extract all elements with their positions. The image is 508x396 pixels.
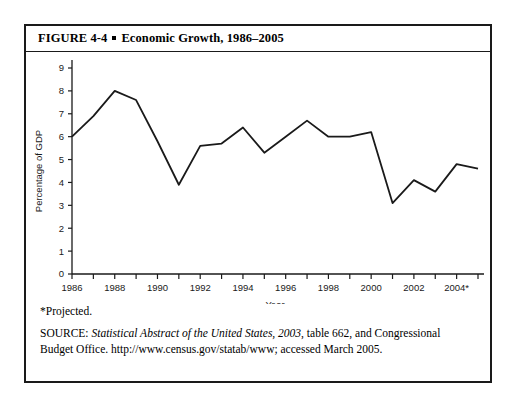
source-prefix: SOURCE: (40, 327, 91, 339)
y-tick-label: 9 (59, 62, 64, 73)
square-bullet-icon (112, 36, 116, 40)
y-tick-label: 6 (59, 131, 64, 142)
y-axis-title: Percentage of GDP (33, 130, 44, 212)
y-tick-label: 7 (59, 108, 64, 119)
y-tick-label: 8 (59, 85, 64, 96)
x-tick-label: 1986 (61, 282, 82, 293)
x-tick-label: 2002 (403, 282, 424, 293)
y-tick-label: 1 (59, 246, 64, 257)
note-projected: *Projected. (40, 304, 476, 320)
x-tick-label: 1996 (275, 282, 296, 293)
y-tick-label: 4 (59, 177, 64, 188)
page-title: Economic Growth, 1986–2005 (121, 31, 283, 46)
figure-notes: *Projected. SOURCE: Statistical Abstract… (26, 304, 490, 357)
x-tick-label: 1988 (104, 282, 125, 293)
figure-number: FIGURE 4-4 (38, 31, 107, 46)
line-chart: 0123456789198619881990199219941996199820… (26, 52, 490, 304)
chart-plot-area: 0123456789198619881990199219941996199820… (26, 52, 490, 304)
source-publication-title: Statistical Abstract of the United State… (91, 327, 301, 339)
y-tick-label: 5 (59, 154, 64, 165)
y-tick-label: 2 (59, 223, 64, 234)
x-tick-label: 1992 (190, 282, 211, 293)
x-tick-label: 2000 (361, 282, 382, 293)
figure-title-bar: FIGURE 4-4 Economic Growth, 1986–2005 (26, 26, 490, 52)
y-tick-label: 0 (59, 268, 64, 279)
data-series-line (72, 91, 478, 203)
x-tick-label: 1998 (318, 282, 339, 293)
y-tick-label: 3 (59, 200, 64, 211)
x-tick-label: 1990 (147, 282, 168, 293)
x-tick-label: 1994 (232, 282, 253, 293)
note-source: SOURCE: Statistical Abstract of the Unit… (40, 325, 476, 358)
figure-container: FIGURE 4-4 Economic Growth, 1986–2005 01… (24, 24, 492, 383)
x-tick-label: 2004* (444, 282, 469, 293)
